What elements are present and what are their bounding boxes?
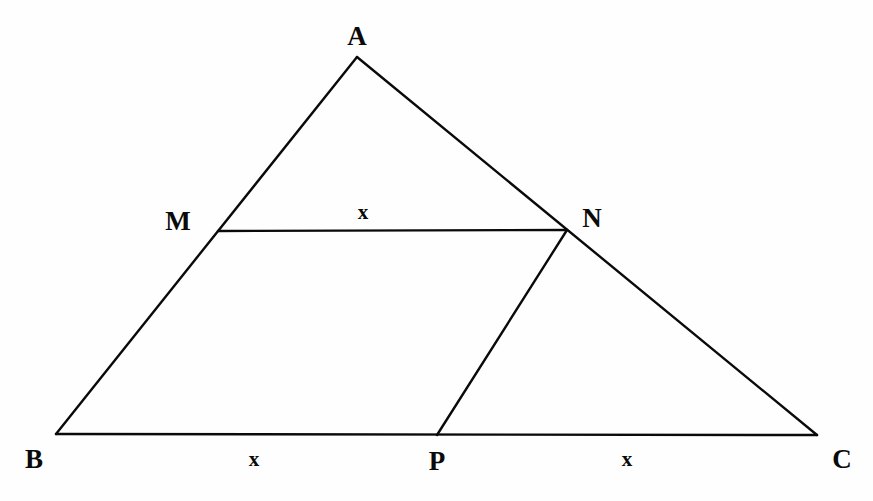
vertex-label-N: N: [582, 205, 602, 232]
geometry-diagram: A B C M N P x x x: [0, 0, 873, 501]
measure-label-pc: x: [622, 449, 633, 470]
segment-PN: [437, 230, 567, 435]
segment-MN: [218, 230, 567, 231]
vertex-label-M: M: [165, 208, 190, 235]
measure-label-bp: x: [249, 449, 260, 470]
triangle-figure: [0, 0, 873, 501]
vertex-label-P: P: [429, 448, 446, 475]
side-AB: [56, 57, 357, 434]
vertex-label-A: A: [347, 23, 367, 50]
vertex-label-C: C: [832, 446, 852, 473]
vertex-label-B: B: [25, 446, 43, 473]
measure-label-mn: x: [358, 202, 369, 223]
side-AC: [357, 57, 817, 435]
